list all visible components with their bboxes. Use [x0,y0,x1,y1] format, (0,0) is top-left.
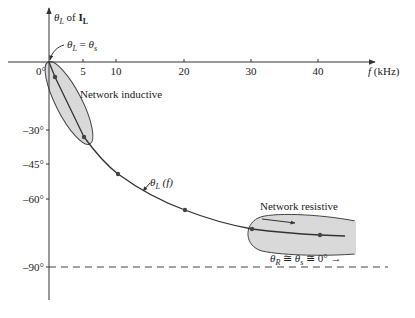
marker-1khz [53,75,57,79]
y-tick-minus-60: –60° [22,193,44,205]
y-tick-minus-30: –30° [22,124,44,136]
origin-pointer-arrow [50,45,64,60]
marker-30khz [250,227,254,231]
x-tick-20: 20 [179,65,191,77]
marker-5khz [82,135,86,139]
x-tick-40: 40 [313,65,325,77]
inductive-label: Network inductive [80,88,162,100]
phase-plot: 0° 5 10 20 30 40 –30° –45° –60° –90° θL … [0,0,415,318]
x-tick-5: 5 [80,65,86,77]
resistive-equation: θR ≅ θs ≅ 0° → [270,252,341,267]
x-tick-0: 0° [36,65,46,77]
y-tick-minus-45: –45° [22,158,44,170]
x-tick-10: 10 [111,65,123,77]
y-axis-title: θL of IL [54,11,88,26]
curve-label: θL (f) [150,176,173,191]
curve-pointer-arrow [143,183,150,191]
resistive-region [248,214,355,255]
resistive-label: Network resistive [260,200,338,212]
y-tick-minus-90: –90° [22,261,44,273]
x-tick-30: 30 [246,65,258,77]
marker-20khz [183,208,187,212]
marker-10khz [116,172,120,176]
x-axis-title: f (kHz) [368,65,400,78]
marker-40khz [318,233,322,237]
phase-plot-figure: 0° 5 10 20 30 40 –30° –45° –60° –90° θL … [0,0,415,318]
inductive-region [37,56,102,150]
origin-annotation: θL = θs [67,38,97,53]
